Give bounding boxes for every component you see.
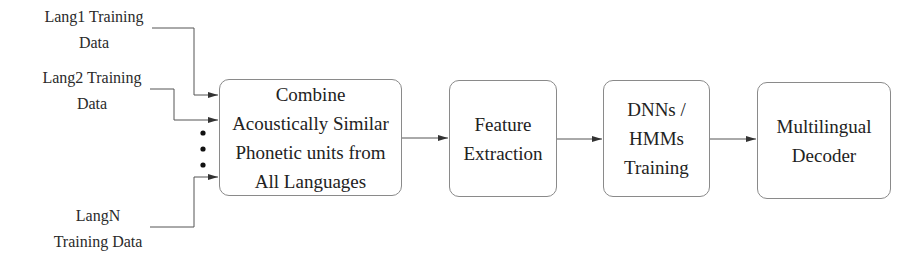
combine-block: Combine Acoustically Similar Phonetic un…: [219, 79, 402, 196]
multilingual-decoder-block: Multilingual Decoder: [757, 82, 891, 199]
feature-extraction-block: Feature Extraction: [449, 80, 557, 197]
vertical-dots-icon: [200, 130, 205, 167]
lang2-arrow: [150, 89, 218, 120]
input-label-lang2: Lang2 Training Data: [34, 65, 150, 117]
input-label-langn: LangN Training Data: [46, 203, 150, 255]
langn-arrow: [150, 177, 218, 227]
lang1-arrow: [152, 28, 218, 95]
input-label-lang1: Lang1 Training Data: [34, 4, 154, 56]
dnn-hmm-training-block: DNNs / HMMs Training: [603, 80, 710, 197]
